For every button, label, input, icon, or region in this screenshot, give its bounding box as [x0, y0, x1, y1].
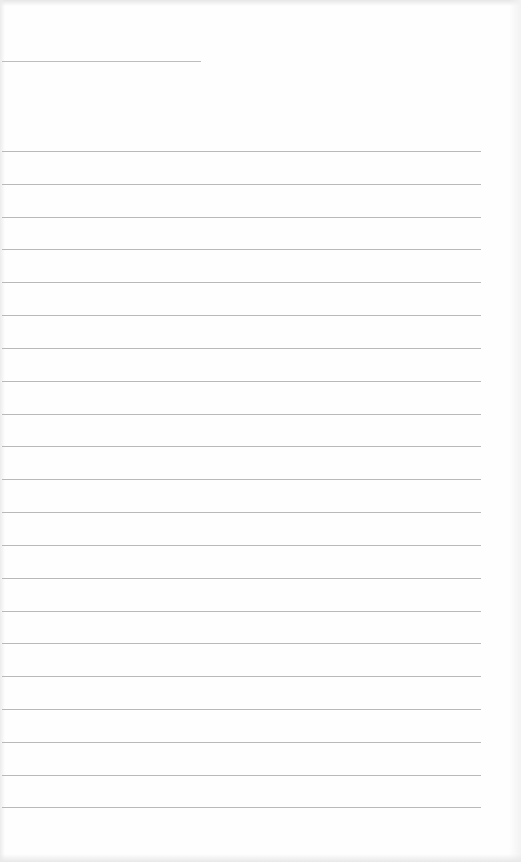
ruled-line	[2, 643, 481, 644]
ruled-line	[2, 184, 481, 185]
ruled-line	[2, 807, 481, 808]
ruled-line	[2, 217, 481, 218]
ruled-line	[2, 545, 481, 546]
page-edge-shadow-bottom	[0, 854, 521, 862]
page-edge-shadow-left	[0, 0, 5, 862]
lined-paper-page	[0, 0, 521, 862]
ruled-line	[2, 611, 481, 612]
ruled-line	[2, 578, 481, 579]
ruled-line	[2, 315, 481, 316]
ruled-line	[2, 676, 481, 677]
ruled-line	[2, 479, 481, 480]
ruled-line	[2, 151, 481, 152]
ruled-line	[2, 446, 481, 447]
ruled-line	[2, 282, 481, 283]
ruled-line	[2, 742, 481, 743]
ruled-line	[2, 775, 481, 776]
ruled-line	[2, 414, 481, 415]
header-line	[2, 61, 201, 62]
ruled-line	[2, 348, 481, 349]
page-edge-shadow-right	[509, 0, 521, 862]
page-edge-shadow-top	[0, 0, 521, 6]
ruled-line	[2, 512, 481, 513]
ruled-line	[2, 381, 481, 382]
ruled-line	[2, 709, 481, 710]
ruled-line	[2, 249, 481, 250]
